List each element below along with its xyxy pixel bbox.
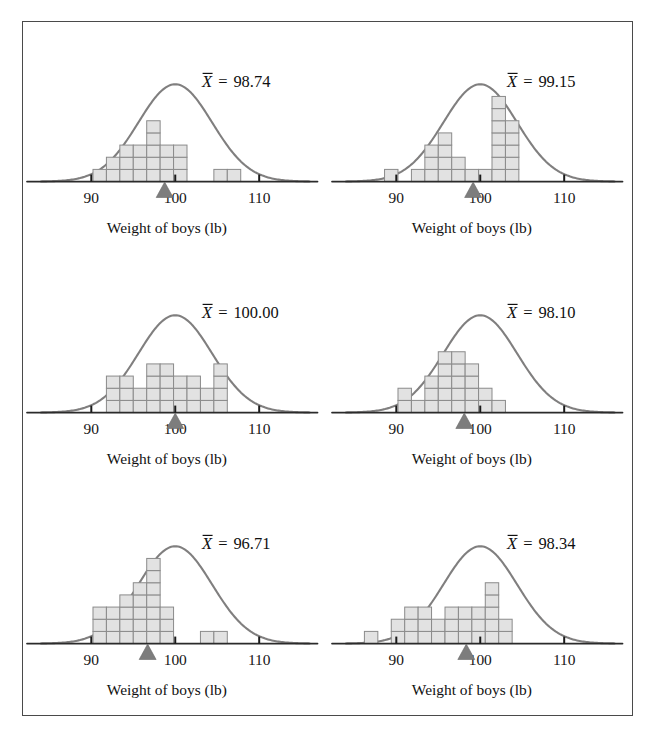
sample-panel-5: 90100110X=96.71Weight of boys (lb) xyxy=(23,484,328,715)
tick-label-90: 90 xyxy=(388,651,404,668)
histogram-cell xyxy=(200,400,213,412)
histogram-cell xyxy=(187,388,200,400)
histogram-cell xyxy=(147,133,160,145)
histogram-cell xyxy=(492,400,505,412)
histogram-cell xyxy=(505,145,518,157)
histogram-cell xyxy=(187,376,200,388)
histogram-cell xyxy=(214,364,227,376)
histogram-cell xyxy=(200,388,213,400)
histogram-cell xyxy=(492,133,505,145)
histogram-cell xyxy=(404,619,417,631)
histogram-cell xyxy=(160,364,173,376)
sample-mean-label: X=98.10 xyxy=(506,303,575,322)
histogram-cell xyxy=(364,631,377,643)
sample-panel-3: 90100110X=100.00Weight of boys (lb) xyxy=(23,253,328,484)
histogram-cell xyxy=(160,619,173,631)
histogram-cell xyxy=(505,121,518,133)
histogram-cell xyxy=(404,607,417,619)
histogram-cell xyxy=(431,619,444,631)
histogram-cell xyxy=(458,619,471,631)
normal-curve xyxy=(41,546,310,643)
histogram-cell xyxy=(120,169,133,181)
histogram-cell xyxy=(160,631,173,643)
sample-mean-marker xyxy=(139,644,156,659)
histogram-cell xyxy=(120,145,133,157)
histogram-cell xyxy=(214,631,227,643)
histogram-cell xyxy=(133,619,146,631)
histogram-bars xyxy=(93,558,227,643)
tick-label-90: 90 xyxy=(84,189,100,206)
histogram-cell xyxy=(174,388,187,400)
tick-label-100: 100 xyxy=(164,651,187,668)
histogram-cell xyxy=(160,400,173,412)
tick-label-110: 110 xyxy=(248,651,271,668)
histogram-cell xyxy=(485,595,498,607)
histogram-cell xyxy=(106,607,119,619)
tick-label-90: 90 xyxy=(388,420,404,437)
histogram-cell xyxy=(444,607,457,619)
histogram-cell xyxy=(106,400,119,412)
histogram-cell xyxy=(147,157,160,169)
histogram-cell xyxy=(133,583,146,595)
histogram-cell xyxy=(451,352,464,364)
histogram-cell xyxy=(120,619,133,631)
histogram-cell xyxy=(106,157,119,169)
histogram-cell xyxy=(214,169,227,181)
histogram-cell xyxy=(147,571,160,583)
histogram-cell xyxy=(214,376,227,388)
histogram-cell xyxy=(418,619,431,631)
panel-plot-4: 90100110X=98.10Weight of boys (lb) xyxy=(328,253,633,484)
histogram-cell xyxy=(106,631,119,643)
tick-label-110: 110 xyxy=(248,420,271,437)
histogram-cell xyxy=(451,388,464,400)
histogram-cell xyxy=(458,631,471,643)
histogram-cell xyxy=(438,352,451,364)
histogram-cell xyxy=(438,145,451,157)
histogram-cell xyxy=(411,169,424,181)
histogram-cell xyxy=(200,631,213,643)
histogram-cell xyxy=(471,607,484,619)
sample-mean-label: X=99.15 xyxy=(506,72,575,91)
histogram-cell xyxy=(120,376,133,388)
histogram-cell xyxy=(133,157,146,169)
histogram-cell xyxy=(106,376,119,388)
histogram-cell xyxy=(133,145,146,157)
histogram-cell xyxy=(147,583,160,595)
panel-plot-3: 90100110X=100.00Weight of boys (lb) xyxy=(23,253,328,484)
histogram-cell xyxy=(120,400,133,412)
histogram-cell xyxy=(147,145,160,157)
histogram-cell xyxy=(160,145,173,157)
histogram-bars xyxy=(397,352,504,413)
normal-curve xyxy=(345,84,614,181)
sample-panel-1: 90100110X=98.74Weight of boys (lb) xyxy=(23,22,328,253)
histogram-cell xyxy=(485,607,498,619)
histogram-cell xyxy=(444,619,457,631)
sample-mean-label: X=96.71 xyxy=(201,534,270,553)
histogram-bars xyxy=(93,121,241,182)
histogram-cell xyxy=(451,400,464,412)
histogram-cell xyxy=(492,145,505,157)
histogram-cell xyxy=(147,169,160,181)
histogram-cell xyxy=(492,109,505,121)
histogram-cell xyxy=(444,631,457,643)
tick-label-100: 100 xyxy=(468,651,491,668)
histogram-cell xyxy=(160,376,173,388)
histogram-cell xyxy=(133,388,146,400)
histogram-cell xyxy=(147,388,160,400)
panel-caption: Weight of boys (lb) xyxy=(411,681,531,699)
tick-label-90: 90 xyxy=(84,651,100,668)
panel-plot-6: 90100110X=98.34Weight of boys (lb) xyxy=(328,484,633,715)
histogram-cell xyxy=(174,376,187,388)
tick-label-110: 110 xyxy=(552,420,575,437)
histogram-cell xyxy=(498,619,511,631)
histogram-cell xyxy=(120,595,133,607)
histogram-cell xyxy=(133,631,146,643)
histogram-cell xyxy=(424,388,437,400)
sample-mean-label: X=98.34 xyxy=(506,534,575,553)
histogram-cell xyxy=(147,631,160,643)
histogram-cell xyxy=(227,169,240,181)
panel-caption: Weight of boys (lb) xyxy=(107,219,227,237)
histogram-cell xyxy=(424,376,437,388)
histogram-cell xyxy=(418,607,431,619)
histogram-cell xyxy=(106,388,119,400)
